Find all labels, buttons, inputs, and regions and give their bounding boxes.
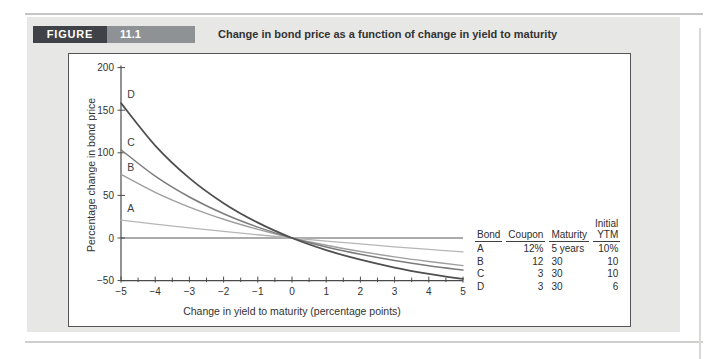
page-edge-line [699,28,701,359]
curve-label-D: D [127,88,135,100]
curve-D [121,103,463,279]
page-bottom-rule [25,341,703,343]
x-tick-label: −1 [252,286,264,297]
y-tick-label: 200 [97,62,114,73]
column-header: InitialYTM [593,218,620,242]
y-tick-label: 150 [97,105,114,116]
table-cell: 30 [549,255,589,268]
table-row: A12%5 years10% [475,242,620,255]
y-axis-label: Percentage change in bond price [85,68,97,282]
x-tick-label: 5 [460,286,466,297]
table-row: B123010 [475,255,620,268]
figure-label-badge: FIGURE [33,26,107,43]
y-tick-label: −50 [97,275,114,286]
table-cell: 12 [506,255,545,268]
x-tick-label: 2 [358,286,364,297]
x-tick-label: 3 [392,286,398,297]
x-axis-label: Change in yield to maturity (percentage … [121,305,463,317]
x-tick-label: −5 [115,286,127,297]
figure-panel: FIGURE 11.1 Change in bond price as a fu… [27,17,680,332]
column-header: Bond [475,218,502,242]
table-row: C33010 [475,267,620,280]
curve-C [121,150,463,270]
x-tick-label: −3 [184,286,196,297]
table-cell: 10 [593,255,620,268]
x-tick-label: −2 [218,286,230,297]
y-tick-label: 50 [103,190,115,201]
table-cell: 10 [593,267,620,280]
column-header: Coupon [506,218,545,242]
bond-table: BondCouponMaturityInitialYTMA12%5 years1… [471,218,624,292]
figure-title: Change in bond price as a function of ch… [218,26,557,43]
figure-header: FIGURE 11.1 Change in bond price as a fu… [33,26,557,43]
table-header-row: BondCouponMaturityInitialYTM [475,218,620,242]
y-tick-label: 0 [108,233,114,244]
table-cell: 3 [506,280,545,293]
table-cell: D [475,280,502,293]
table-cell: 6 [593,280,620,293]
table-cell: 30 [549,267,589,280]
table-cell: 10% [593,242,620,255]
table-cell: A [475,242,502,255]
table-row: D3306 [475,280,620,293]
page-top-rule [25,13,703,15]
table-cell: 3 [506,267,545,280]
x-tick-label: 4 [426,286,432,297]
figure-number-badge: 11.1 [107,26,195,43]
curve-A [121,220,463,252]
table-cell: 5 years [549,242,589,255]
x-tick-label: 0 [289,286,295,297]
page: FIGURE 11.1 Change in bond price as a fu… [0,0,706,359]
y-tick-label: 100 [97,147,114,158]
curve-label-A: A [127,202,134,214]
column-header: Maturity [549,218,589,242]
table-cell: 30 [549,280,589,293]
table-cell: B [475,255,502,268]
curve-label-B: B [127,161,134,173]
table-cell: 12% [506,242,545,255]
table-cell: C [475,267,502,280]
x-tick-label: 1 [323,286,329,297]
curve-label-C: C [127,136,135,148]
chart-box: 200150100500−50−5−4−3−2−1012345ABCD Perc… [68,53,631,327]
x-tick-label: −4 [149,286,161,297]
